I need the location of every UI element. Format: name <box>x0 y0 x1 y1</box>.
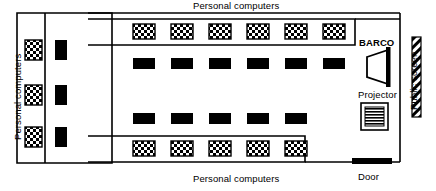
keyboard-icon <box>25 127 42 147</box>
monitor-icon <box>209 58 231 69</box>
label-left-personal-computers: Personal computers <box>13 54 23 140</box>
keyboard-icon <box>209 141 231 156</box>
monitor-icon <box>133 58 155 69</box>
keyboard-icon <box>171 141 193 156</box>
monitor-icon <box>285 58 307 69</box>
label-top-personal-computers: Personal computers <box>193 1 279 11</box>
barco-beamer-icon <box>367 47 391 87</box>
keyboard-icon <box>247 141 269 156</box>
top-row-keyboards <box>133 24 345 39</box>
keyboard-icon <box>323 24 345 39</box>
keyboard-icon <box>171 24 193 39</box>
bottom-row-keyboards <box>133 141 307 156</box>
monitor-icon <box>209 113 231 124</box>
keyboard-icon <box>25 85 42 105</box>
floor-plan-diagram: Personal computers Personal computers Pe… <box>0 0 436 191</box>
monitor-icon <box>55 40 67 60</box>
keyboard-icon <box>285 24 307 39</box>
monitor-icon <box>171 113 193 124</box>
striped-projector-icon <box>361 103 388 130</box>
second-row-monitors <box>133 58 345 69</box>
left-column-monitors <box>55 40 67 147</box>
monitor-icon <box>247 58 269 69</box>
monitor-icon <box>285 113 307 124</box>
monitor-icon <box>133 113 155 124</box>
label-bottom-personal-computers: Personal computers <box>193 174 279 184</box>
door-bar-icon <box>352 158 392 164</box>
monitor-icon <box>55 127 67 147</box>
monitor-icon <box>171 58 193 69</box>
monitor-icon <box>247 113 269 124</box>
label-projector: Projector <box>358 90 397 100</box>
monitor-icon <box>55 85 67 105</box>
keyboard-icon <box>133 141 155 156</box>
keyboard-icon <box>285 141 307 156</box>
keyboard-icon <box>25 40 42 60</box>
keyboard-icon <box>247 24 269 39</box>
label-public-screen: Public screen <box>409 52 419 110</box>
left-column-keyboards <box>25 40 42 147</box>
label-door: Door <box>358 172 379 182</box>
third-row-monitors <box>133 113 307 124</box>
label-barco: BARCO <box>359 38 394 48</box>
keyboard-icon <box>209 24 231 39</box>
keyboard-icon <box>133 24 155 39</box>
monitor-icon <box>323 58 345 69</box>
